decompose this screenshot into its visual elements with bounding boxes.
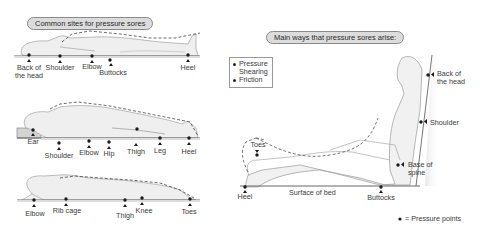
label-line: spine (408, 169, 432, 177)
label-heel-seated: Heel (238, 193, 253, 201)
prone-figure (17, 175, 200, 202)
label-back-of-head-seated: Back of the head (437, 70, 465, 86)
legend-label: Friction (239, 76, 263, 84)
label-toes-seated: Toes (250, 141, 265, 149)
label-ear-side: Ear (27, 138, 38, 146)
label-elbow-prone: Elbow (25, 210, 45, 218)
legend-item-friction: Friction (233, 76, 268, 84)
bullet-icon (233, 79, 236, 82)
label-knee-prone: Knee (136, 207, 153, 215)
label-shoulder-seated: Shoulder (430, 119, 459, 127)
label-shoulder-side: Shoulder (45, 152, 74, 160)
label-heel-side: Heel (182, 148, 197, 156)
label-thigh-prone: Thigh (116, 212, 134, 220)
label-elbow-side: Elbow (79, 149, 99, 157)
label-toes-prone: Toes (181, 208, 196, 216)
causes-legend: Pressure Shearing Friction (229, 57, 273, 88)
bullet-icon (233, 63, 236, 66)
label-line: the head (437, 78, 465, 86)
left-panel-title: Common sites for pressure sores (27, 17, 153, 30)
label-hip-side: Hip (104, 150, 115, 158)
label-thigh-side: Thigh (127, 148, 145, 156)
right-panel-title: Main ways that pressure sores arise: (266, 31, 404, 44)
label-surface-of-bed: Surface of bed (289, 189, 336, 197)
label-line: the head (15, 72, 43, 80)
label-buttocks-supine: Buttocks (99, 69, 127, 77)
supine-figure (14, 31, 200, 58)
label-base-of-spine-seated: Base of spine (408, 161, 432, 177)
label-back-of-head-supine: Back of the head (15, 64, 43, 80)
label-buttocks-seated: Buttocks (367, 194, 395, 202)
label-heel-supine: Heel (181, 64, 196, 72)
side-lying-figure (17, 102, 200, 140)
pressure-points-key: = Pressure points (405, 215, 461, 223)
label-leg-side: Leg (154, 147, 166, 155)
label-shoulder-supine: Shoulder (46, 64, 75, 72)
label-rib-cage-prone: Rib cage (53, 207, 81, 215)
